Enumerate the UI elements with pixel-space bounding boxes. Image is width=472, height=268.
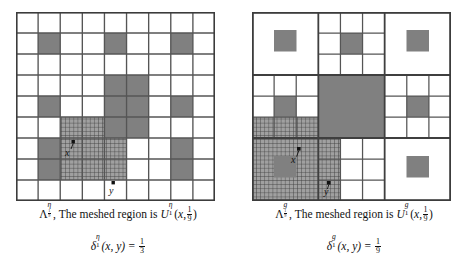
- grid-right: x y: [252, 12, 451, 201]
- block-r0-c0: [274, 30, 297, 52]
- caption-left-line1: Λη19, The meshed region is Uη1(x,19): [0, 206, 236, 224]
- lambda-symbol: Λ: [39, 208, 47, 220]
- equals-sign: =: [129, 240, 136, 252]
- caption-right-line1: Λg19, The meshed region is Ug1(x,19): [236, 206, 472, 224]
- arg-denominator: 9: [187, 214, 193, 223]
- delta-args: (x, y): [337, 240, 361, 252]
- U-subscript: 1: [405, 209, 409, 217]
- panel-left: x y Λη19, The meshed region is Uη1(x,19)…: [0, 0, 236, 268]
- block-r0-c2: [407, 30, 430, 52]
- delta-args: (x, y): [101, 240, 125, 252]
- value-denominator: 9: [375, 246, 381, 255]
- block-r2-c0-inner-square: [274, 156, 297, 178]
- panel-right: x y Λg19, The meshed region is Ug1(x,19)…: [236, 0, 472, 268]
- U-symbol: U: [396, 208, 404, 220]
- lambda-sub-denominator: 9: [48, 213, 51, 218]
- value-denominator: 3: [139, 246, 145, 255]
- grid-left: x y: [16, 12, 215, 201]
- block-r1-c2: [407, 96, 429, 117]
- U-symbol: U: [160, 208, 168, 220]
- delta-subscript: 1: [96, 241, 100, 249]
- lambda-comma: ,: [289, 208, 292, 220]
- arg-close-paren: ): [193, 208, 197, 220]
- arg-numerator: 1: [423, 206, 429, 214]
- block-r1-c1: [318, 75, 384, 138]
- arg-close-paren: ): [429, 208, 433, 220]
- delta-subscript: 1: [332, 241, 336, 249]
- lambda-subscript: 19: [48, 209, 52, 218]
- grid-right-svg: [252, 12, 451, 201]
- arg-numerator: 1: [187, 206, 193, 214]
- lambda-subscript: 19: [284, 209, 288, 218]
- arg-denominator: 9: [423, 214, 429, 223]
- value-numerator: 1: [375, 238, 381, 246]
- value-numerator: 1: [139, 238, 145, 246]
- caption-right-line2: δg1(x, y)=19: [236, 238, 472, 256]
- block-r0-c1: [340, 33, 362, 54]
- grid-left-svg: [16, 12, 215, 201]
- caption-text: The meshed region is: [59, 208, 158, 220]
- equals-sign: =: [365, 240, 372, 252]
- U-subscript: 1: [169, 209, 173, 217]
- caption-left-line2: δη1(x, y)=13: [0, 238, 236, 256]
- block-r2-c2: [407, 156, 430, 178]
- block-r1-c0: [274, 96, 296, 117]
- figure-pair: x y Λη19, The meshed region is Uη1(x,19)…: [0, 0, 472, 268]
- lambda-sub-denominator: 9: [284, 213, 287, 218]
- lambda-comma: ,: [53, 208, 56, 220]
- caption-text: The meshed region is: [295, 208, 394, 220]
- lambda-symbol: Λ: [275, 208, 283, 220]
